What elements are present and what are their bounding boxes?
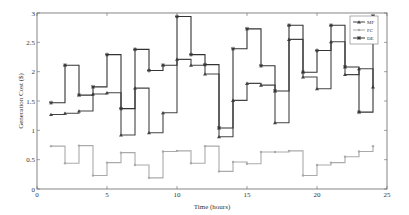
series-mf (49, 38, 375, 139)
x-axis-ticks: 0510152025 (35, 13, 391, 199)
star-marker (203, 63, 207, 67)
dot-marker (106, 161, 108, 163)
y-tick-label: 2.5 (26, 39, 35, 47)
dot-marker (50, 145, 52, 147)
legend: MFFCDE (350, 16, 378, 44)
y-tick-label: 1.5 (26, 98, 35, 106)
step-line-chart: 0510152025 00.511.522.53 Time (hours) Ge… (0, 0, 409, 215)
legend-label: DE (367, 36, 374, 41)
dot-marker (302, 174, 304, 176)
dot-marker (162, 150, 164, 152)
dot-marker (372, 145, 374, 147)
y-tick-label: 1 (32, 127, 36, 135)
star-marker (245, 27, 249, 31)
dot-marker (134, 164, 136, 166)
legend-label: FC (367, 28, 374, 33)
x-tick-label: 15 (244, 191, 252, 199)
dot-marker (274, 151, 276, 153)
dot-marker (190, 162, 192, 164)
dot-marker (120, 151, 122, 153)
dot-marker (232, 161, 234, 163)
dot-marker (148, 177, 150, 179)
dot-marker (260, 151, 262, 153)
star-marker (189, 53, 193, 57)
star-marker (91, 85, 95, 89)
y-tick-label: 2 (32, 68, 36, 76)
x-tick-label: 10 (174, 191, 182, 199)
series-line (51, 39, 373, 136)
dot-marker (330, 161, 332, 163)
series-layer (49, 14, 375, 179)
star-marker (357, 110, 361, 114)
series-de (49, 14, 375, 130)
x-tick-label: 25 (384, 191, 392, 199)
dot-marker (288, 150, 290, 152)
dot-marker (176, 150, 178, 152)
star-marker (119, 107, 123, 111)
series-fc (50, 144, 374, 179)
dot-marker (358, 29, 360, 31)
dot-marker (64, 162, 66, 164)
star-marker (273, 89, 277, 93)
star-marker (147, 68, 151, 72)
star-marker (357, 36, 361, 40)
series-line (51, 16, 373, 128)
dot-marker (344, 156, 346, 158)
y-tick-label: 0 (32, 186, 36, 194)
star-marker (301, 70, 305, 74)
dot-marker (246, 163, 248, 165)
star-marker (343, 65, 347, 69)
y-tick-label: 3 (32, 10, 36, 18)
dot-marker (78, 144, 80, 146)
x-tick-label: 0 (35, 191, 39, 199)
legend-label: MF (367, 20, 374, 25)
star-marker (105, 53, 109, 57)
star-marker (77, 93, 81, 97)
dot-marker (204, 145, 206, 147)
dot-marker (358, 150, 360, 152)
y-tick-label: 0.5 (26, 156, 35, 164)
star-marker (231, 47, 235, 51)
star-marker (63, 63, 67, 67)
star-marker (259, 64, 263, 68)
dot-marker (218, 170, 220, 172)
star-marker (287, 23, 291, 27)
star-marker (133, 47, 137, 51)
dot-marker (92, 174, 94, 176)
star-marker (315, 49, 319, 53)
x-axis-label: Time (hours) (194, 203, 231, 211)
star-marker (217, 126, 221, 130)
star-marker (49, 101, 53, 105)
series-line (51, 146, 373, 178)
y-axis-ticks: 00.511.522.53 (26, 10, 387, 194)
y-axis-label: Generation Cost ($) (17, 73, 25, 129)
star-marker (161, 63, 165, 67)
x-tick-label: 5 (105, 191, 109, 199)
dot-marker (316, 164, 318, 166)
x-tick-label: 20 (314, 191, 322, 199)
star-marker (329, 23, 333, 27)
